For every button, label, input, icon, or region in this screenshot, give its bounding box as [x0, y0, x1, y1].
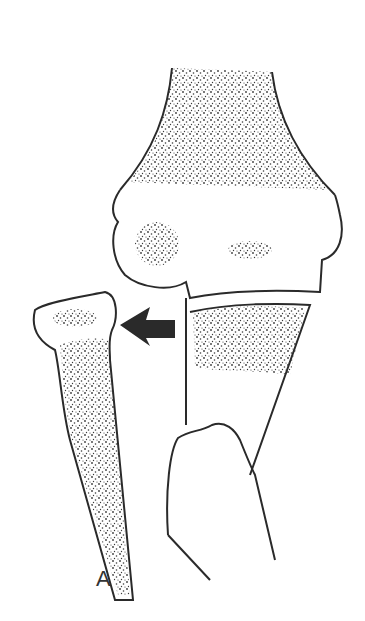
ulna — [150, 298, 310, 590]
arrow-left-icon — [120, 307, 175, 346]
radius — [34, 292, 133, 600]
anatomical-illustration: A — [0, 0, 365, 621]
humerus — [113, 68, 342, 298]
panel-label: A — [96, 566, 111, 591]
